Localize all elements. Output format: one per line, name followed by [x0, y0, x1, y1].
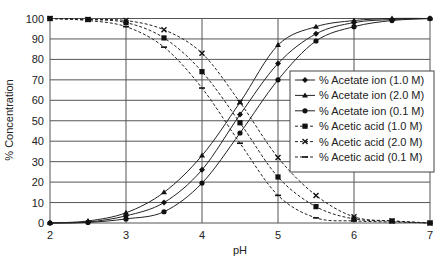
- x-tick-label: 6: [351, 229, 357, 241]
- circle-marker: [123, 216, 128, 221]
- y-tick-label: 70: [32, 74, 44, 86]
- legend-label: % Acetate ion (2.0 M): [319, 89, 424, 101]
- legend: % Acetate ion (1.0 M)% Acetate ion (2.0 …: [290, 71, 434, 172]
- square-marker: [161, 35, 166, 40]
- x-marker: [162, 27, 167, 32]
- circle-marker: [237, 130, 242, 135]
- y-tick-label: 0: [38, 217, 44, 229]
- circle-marker: [275, 77, 280, 82]
- x-tick-label: 3: [123, 229, 129, 241]
- y-tick-label: 60: [32, 94, 44, 106]
- circle-marker: [47, 220, 52, 225]
- y-tick-label: 90: [32, 33, 44, 45]
- legend-label: % Acetic acid (1.0 M): [319, 120, 422, 132]
- x-axis-title: pH: [233, 244, 247, 256]
- y-tick-label: 50: [32, 115, 44, 127]
- legend-label: % Acetate ion (1.0 M): [319, 74, 424, 86]
- circle-marker: [313, 38, 318, 43]
- x-tick-label: 5: [275, 229, 281, 241]
- diamond-marker: [161, 200, 167, 206]
- legend-label: % Acetic acid (2.0 M): [319, 136, 422, 148]
- x-tick-label: 2: [47, 229, 53, 241]
- circle-marker: [161, 209, 166, 214]
- triangle-marker: [161, 189, 167, 194]
- x-tick-label: 7: [427, 229, 433, 241]
- x-axis-ticks: 234567: [47, 229, 433, 241]
- y-tick-label: 80: [32, 53, 44, 65]
- legend-label: % Acetate ion (0.1 M): [319, 105, 424, 117]
- y-axis-ticks: 0102030405060708090100: [26, 13, 44, 230]
- square-marker: [237, 120, 242, 125]
- y-tick-label: 40: [32, 135, 44, 147]
- circle-marker: [302, 108, 307, 113]
- circle-marker: [85, 220, 90, 225]
- diamond-marker: [313, 31, 319, 37]
- square-marker: [199, 69, 204, 74]
- square-marker: [313, 204, 318, 209]
- x-marker: [314, 193, 319, 198]
- chart: 0102030405060708090100 234567 pH % Conce…: [0, 0, 444, 264]
- y-axis-title: % Concentration: [3, 79, 15, 160]
- circle-marker: [199, 181, 204, 186]
- square-marker: [302, 124, 307, 129]
- y-tick-label: 100: [26, 13, 44, 25]
- y-tick-label: 30: [32, 156, 44, 168]
- circle-marker: [351, 24, 356, 29]
- circle-marker: [389, 18, 394, 23]
- y-tick-label: 10: [32, 197, 44, 209]
- x-tick-label: 4: [199, 229, 205, 241]
- circle-marker: [427, 16, 432, 21]
- y-tick-label: 20: [32, 176, 44, 188]
- square-marker: [275, 174, 280, 179]
- legend-label: % Acetic acid (0.1 M): [319, 151, 422, 163]
